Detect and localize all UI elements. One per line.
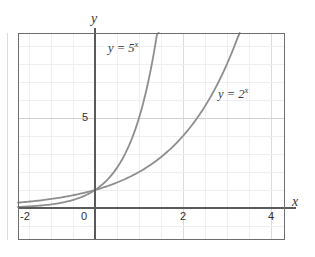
- x-tick-label-4: 4: [268, 211, 274, 222]
- curve-label-5-base: y = 5: [108, 41, 134, 55]
- curve-label-2-base: y = 2: [218, 87, 244, 101]
- y-axis-label: y: [91, 12, 97, 26]
- curve-label-2-to-the-x: y = 2x: [218, 88, 248, 101]
- x-tick-label-2: 2: [180, 211, 186, 222]
- exponential-functions-chart: y x y = 5x y = 2x -2 0 2 4 5: [0, 0, 315, 257]
- x-tick-label-neg2: -2: [20, 211, 30, 222]
- x-axis-label: x: [292, 195, 298, 209]
- curve-label-5-to-the-x: y = 5x: [108, 42, 138, 55]
- top-clip-mask: [0, 0, 315, 33]
- x-tick-label-0: 0: [81, 211, 87, 222]
- curve-label-2-exponent: x: [244, 85, 248, 95]
- curve-label-5-exponent: x: [134, 39, 138, 49]
- y-tick-label-5: 5: [82, 112, 88, 123]
